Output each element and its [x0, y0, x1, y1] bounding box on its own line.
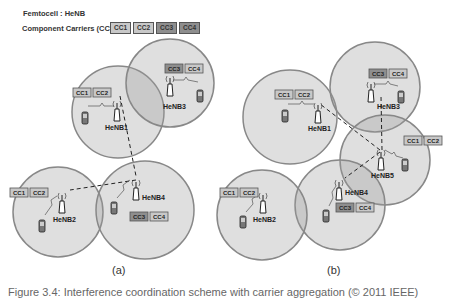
svg-text:HeNB3: HeNB3	[377, 103, 400, 110]
svg-text:HeNB2: HeNB2	[253, 216, 276, 223]
svg-text:CC3: CC3	[372, 71, 385, 77]
svg-text:CC3: CC3	[339, 205, 352, 211]
svg-text:CC1: CC1	[76, 90, 89, 96]
svg-text:HeNB1: HeNB1	[105, 124, 128, 131]
panel-a-label: (a)	[112, 264, 125, 276]
svg-text:CC4: CC4	[392, 71, 405, 77]
figure-caption: Figure 3.4: Interference coordination sc…	[8, 286, 418, 298]
svg-text:CC1: CC1	[13, 190, 26, 196]
svg-text:CC2: CC2	[33, 190, 46, 196]
svg-text:CC1: CC1	[278, 92, 291, 98]
svg-text:CC2: CC2	[96, 90, 109, 96]
svg-text:CC3: CC3	[133, 214, 146, 220]
svg-text:CC4: CC4	[359, 205, 372, 211]
svg-text:CC1: CC1	[407, 138, 420, 144]
svg-text:HeNB4: HeNB4	[345, 189, 368, 196]
svg-text:CC4: CC4	[188, 66, 201, 72]
svg-text:HeNB2: HeNB2	[53, 216, 76, 223]
svg-text:CC1: CC1	[223, 190, 236, 196]
svg-text:HeNB5: HeNB5	[371, 172, 394, 179]
svg-text:CC2: CC2	[243, 190, 256, 196]
svg-text:HeNB1: HeNB1	[308, 125, 331, 132]
svg-text:HeNB3: HeNB3	[163, 103, 186, 110]
panel-b-label: (b)	[327, 264, 340, 276]
svg-text:HeNB4: HeNB4	[142, 194, 165, 201]
svg-text:CC4: CC4	[153, 214, 166, 220]
svg-text:CC2: CC2	[298, 92, 311, 98]
svg-text:CC2: CC2	[427, 138, 440, 144]
svg-text:CC3: CC3	[168, 66, 181, 72]
